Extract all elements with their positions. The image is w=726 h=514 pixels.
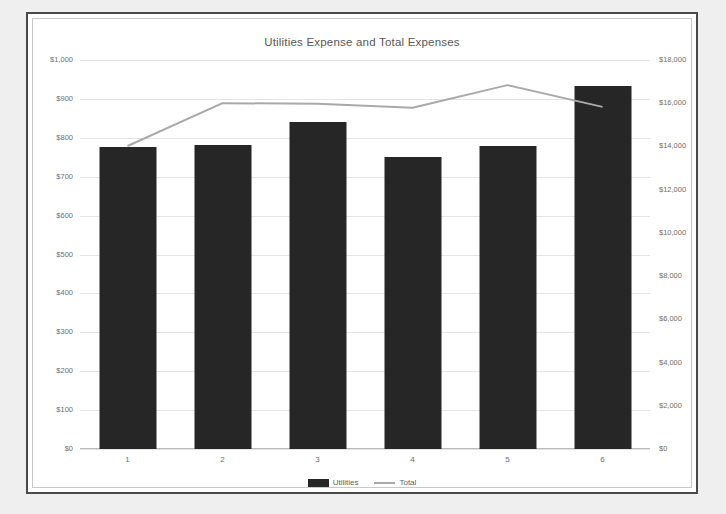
right-axis-tick: $16,000 — [659, 99, 686, 107]
left-axis-tick: $100 — [56, 406, 73, 414]
right-axis-tick: $0 — [659, 445, 667, 453]
legend-swatch-line-icon — [374, 482, 395, 484]
plot-area: $0$100$200$300$400$500$600$700$800$900$1… — [80, 60, 650, 449]
legend-item-utilities[interactable]: Utilities — [308, 478, 359, 487]
x-axis-tick: 2 — [220, 455, 224, 464]
legend-label-utilities: Utilities — [333, 478, 359, 487]
right-axis-tick: $8,000 — [659, 272, 682, 280]
chart-title: Utilities Expense and Total Expenses — [28, 36, 696, 48]
left-axis-tick: $800 — [56, 134, 73, 142]
x-axis-tick: 6 — [600, 455, 604, 464]
x-axis-tick: 5 — [505, 455, 509, 464]
chart-card: Utilities Expense and Total Expenses $0$… — [26, 12, 698, 494]
x-axis-category-labels: 123456 — [80, 455, 650, 469]
chart-legend: Utilities Total — [28, 478, 696, 487]
x-axis-tick: 1 — [125, 455, 129, 464]
right-axis-tick: $6,000 — [659, 315, 682, 323]
left-axis-tick: $1,000 — [50, 56, 73, 64]
right-axis-tick: $18,000 — [659, 56, 686, 64]
x-axis-tick: 4 — [410, 455, 414, 464]
legend-item-total[interactable]: Total — [374, 478, 416, 487]
right-axis-tick: $12,000 — [659, 186, 686, 194]
right-axis-tick: $14,000 — [659, 142, 686, 150]
legend-label-total: Total — [399, 478, 416, 487]
right-axis-tick: $10,000 — [659, 229, 686, 237]
right-axis-tick: $4,000 — [659, 359, 682, 367]
left-axis-tick: $700 — [56, 173, 73, 181]
x-axis-tick: 3 — [315, 455, 319, 464]
left-axis-tick: $0 — [65, 445, 73, 453]
left-axis-tick: $500 — [56, 251, 73, 259]
legend-swatch-bar-icon — [308, 479, 329, 487]
left-axis-tick: $600 — [56, 212, 73, 220]
left-axis-tick: $900 — [56, 95, 73, 103]
right-axis-tick: $2,000 — [659, 402, 682, 410]
left-axis-tick: $200 — [56, 367, 73, 375]
left-axis-tick: $300 — [56, 328, 73, 336]
left-axis-tick: $400 — [56, 289, 73, 297]
gridline — [80, 449, 650, 450]
line-path[interactable] — [128, 85, 603, 146]
line-series-total — [80, 60, 650, 449]
